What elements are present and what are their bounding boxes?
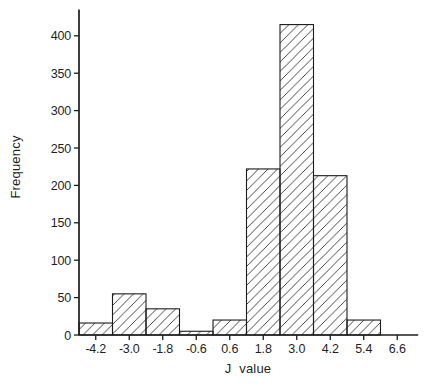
histogram-bar xyxy=(280,25,314,335)
y-tick-label: 50 xyxy=(57,291,71,305)
x-tick-label: 6.6 xyxy=(389,342,406,356)
x-tick-label: -4.2 xyxy=(85,342,106,356)
y-tick-label: 250 xyxy=(51,142,72,156)
y-tick-label: 400 xyxy=(51,29,72,43)
y-tick-label: 300 xyxy=(51,104,72,118)
histogram-chart: 050100150200250300350400 -4.2-3.0-1.8-0.… xyxy=(0,0,428,388)
x-tick-label: -3.0 xyxy=(119,342,140,356)
y-tick-label: 100 xyxy=(51,254,72,268)
y-tick-label: 350 xyxy=(51,67,72,81)
x-tick-label: 3.0 xyxy=(288,342,305,356)
x-tick-label: 1.8 xyxy=(255,342,272,356)
x-tick-label: 5.4 xyxy=(355,342,372,356)
histogram-bar xyxy=(79,323,113,335)
y-tick-label: 0 xyxy=(64,329,71,343)
y-axis-ticks: 050100150200250300350400 xyxy=(51,29,79,342)
y-axis-title: Frequency xyxy=(8,135,23,199)
histogram-figure: 050100150200250300350400 -4.2-3.0-1.8-0.… xyxy=(0,0,428,388)
histogram-bar xyxy=(314,176,348,335)
x-tick-label: 0.6 xyxy=(221,342,238,356)
x-tick-label: 4.2 xyxy=(322,342,339,356)
y-tick-label: 200 xyxy=(51,179,72,193)
histogram-bar xyxy=(247,169,281,335)
histogram-bars xyxy=(79,25,381,335)
x-tick-label: -1.8 xyxy=(152,342,173,356)
histogram-bar xyxy=(213,320,247,335)
x-axis-title: J value xyxy=(225,361,272,376)
x-axis-ticks: -4.2-3.0-1.8-0.60.61.83.04.25.46.6 xyxy=(85,335,406,356)
histogram-bar xyxy=(347,320,381,335)
histogram-bar xyxy=(146,309,180,335)
y-tick-label: 150 xyxy=(51,216,72,230)
x-tick-label: -0.6 xyxy=(186,342,207,356)
histogram-bar xyxy=(113,294,147,335)
